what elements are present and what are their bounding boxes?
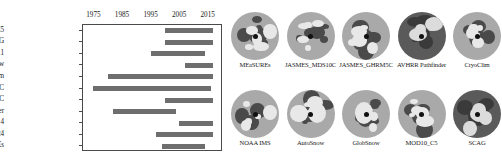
y-axis-label: JASMES GHRM5C [0,84,4,92]
map-thumbnail-label: MOD10_C5 [395,139,449,147]
map-thumbnail-label: AutoSnow [284,139,338,147]
pole-hole-marker [419,112,424,117]
y-axis-label: GloBSnow v2.1 [0,49,4,57]
snow-region [367,42,378,54]
y-axis-label: MOD10_C5 [0,26,4,34]
map-thumbnail-label: AVHRR Pathfinder [395,61,449,69]
map-thumbnail-label: JASMES_GHRM5C [339,61,393,69]
polar-map-disc [398,90,446,138]
y-axis-label: MEaSUREs [0,141,4,149]
pole-hole-marker [364,34,369,39]
gantt-bar [165,98,214,103]
snow-region [425,17,443,31]
map-thumbnail-label: NOAA IMS [228,139,282,147]
snow-region [253,42,269,52]
gantt-bar [185,63,214,68]
snow-region [410,99,418,104]
land-region [320,36,328,43]
pole-hole-marker [475,112,480,117]
snow-region [243,101,251,108]
polar-map-disc [287,90,335,138]
pole-hole-marker [253,34,258,39]
polar-map-disc [342,12,390,60]
pole-hole-marker [308,112,313,117]
land-region [370,99,380,107]
map-thumbnail-cell[interactable]: MEaSUREs [228,12,282,69]
x-tick-label: 2015 [201,11,215,19]
map-thumbnail-cell[interactable]: JASMES_MDS10C [284,12,338,69]
polar-map-disc [453,90,501,138]
snow-region [468,24,478,35]
polar-map-disc [398,12,446,60]
snow-region [305,45,310,51]
plot-area [82,24,222,151]
map-thumbnail-cell[interactable]: CryoClim [450,12,502,69]
land-region [482,30,495,44]
snow-region [416,115,434,126]
snow-region [263,24,277,38]
gantt-bar [179,121,213,126]
gantt-bar [108,74,214,79]
map-thumbnail-cell[interactable]: AVHRR Pathfinder [395,12,449,69]
map-thumbnail-cell[interactable]: GlobSnow [339,90,393,147]
snow-region [263,105,277,120]
polar-map-disc [231,12,279,60]
snow-region [472,37,485,48]
snow-region [479,111,492,124]
snow-region [297,36,308,43]
map-thumbnail-label: GlobSnow [339,139,393,147]
polar-map-disc [342,90,390,138]
gantt-bar [165,40,214,45]
x-tick-label: 2005 [172,11,186,19]
pole-hole-marker [253,112,258,117]
map-thumbnail-label: CryoClim [450,61,502,69]
gantt-bar [165,28,214,33]
y-axis-label: NOAA IMS 24 [0,130,4,138]
pole-hole-marker [308,34,313,39]
map-thumbnail-label: SCAG [450,139,502,147]
gantt-bar [151,51,205,56]
map-thumbnail-cell[interactable]: MOD10_C5 [395,90,449,147]
pole-hole-marker [419,34,424,39]
snow-region [369,123,377,132]
y-axis-label: CryoClim [0,72,4,80]
map-thumbnail-label: MEaSUREs [228,61,282,69]
timeline-chart: 19751985199520052015 MOD10_C5SCAGGloBSno… [0,0,228,158]
polar-map-disc [287,12,335,60]
y-axis-label: JASMES MDS10C [0,95,4,103]
snow-region [348,39,357,46]
map-thumbnail-grid: MEaSUREsJASMES_MDS10CJASMES_GHRM5CAVHRR … [228,0,502,158]
snow-region [298,23,310,30]
gantt-bar [162,144,205,149]
x-tick-label: 1975 [86,11,100,19]
snow-region [409,113,415,117]
map-thumbnail-label: JASMES_MDS10C [284,61,338,69]
y-axis-label: AVHRR Pathfinder [0,107,4,115]
x-tick-label: 1985 [115,11,129,19]
map-thumbnail-cell[interactable]: AutoSnow [284,90,338,147]
map-thumbnail-cell[interactable]: SCAG [450,90,502,147]
map-thumbnail-cell[interactable]: NOAA IMS [228,90,282,147]
polar-map-disc [231,90,279,138]
gantt-bar [156,132,213,137]
snow-product-figure: 19751985199520052015 MOD10_C5SCAGGloBSno… [0,0,502,158]
map-thumbnail-cell[interactable]: JASMES_GHRM5C [339,12,393,69]
gantt-bar [113,109,176,114]
y-axis-label: AutoSnow [0,60,4,68]
pole-hole-marker [364,112,369,117]
x-tick-label: 1995 [143,11,157,19]
land-region [252,16,262,24]
y-axis-label: SCAG [0,37,4,45]
y-axis-label: NOAA IMS 4 [0,118,4,126]
polar-map-disc [453,12,501,60]
pole-hole-marker [475,34,480,39]
snow-region [368,114,376,118]
snow-region [463,121,476,136]
gantt-bar [93,86,210,91]
snow-region [245,44,253,49]
snow-region [241,120,252,130]
